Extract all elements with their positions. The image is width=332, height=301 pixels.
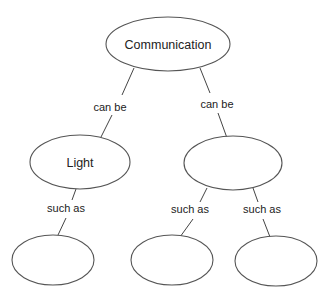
concept-map: can be can be such as such as such as Co… <box>0 0 332 301</box>
edge-right-bottom-middle: such as <box>171 188 209 237</box>
node-light: Light <box>30 135 130 189</box>
edge-label: such as <box>243 203 281 215</box>
edge-communication-right: can be <box>200 68 234 138</box>
edge-communication-light: can be <box>93 68 134 137</box>
edge-label: can be <box>200 98 233 110</box>
node-empty-right <box>184 136 282 190</box>
edge-label: such as <box>171 203 209 215</box>
edge-label: such as <box>47 202 85 214</box>
node-empty-bottom-left <box>12 235 94 285</box>
node-empty-bottom-middle <box>131 235 213 285</box>
edge-right-bottom-right: such as <box>243 188 281 237</box>
node-communication: Communication <box>106 17 230 71</box>
edge-light-bottom-left: such as <box>47 189 85 235</box>
edge-label: can be <box>93 101 126 113</box>
node-label: Communication <box>125 38 212 52</box>
node-empty-bottom-right <box>235 236 317 286</box>
node-label: Light <box>66 156 94 170</box>
